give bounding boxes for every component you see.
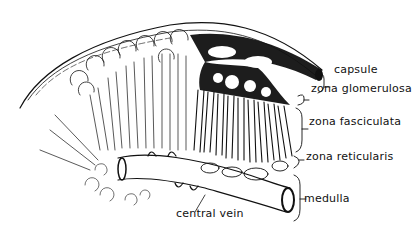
diagram-drawing (0, 0, 413, 228)
label-capsule: capsule (334, 63, 378, 76)
label-zona-glomerulosa: zona glomerulosa (311, 82, 412, 95)
label-zona-fasciculata: zona fasciculata (309, 115, 401, 128)
adrenal-diagram: capsule zona glomerulosa zona fasciculat… (0, 0, 413, 228)
label-zona-reticularis: zona reticularis (306, 150, 393, 163)
label-medulla: medulla (304, 192, 350, 205)
label-central-vein: central vein (176, 207, 244, 220)
